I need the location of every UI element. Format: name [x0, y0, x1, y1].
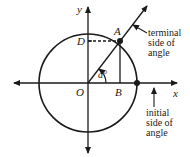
initial-line-3: angle: [146, 128, 173, 138]
terminal-side-ray: [88, 6, 147, 83]
point-D-label: D: [77, 36, 85, 47]
x-axis-label: x: [173, 88, 178, 99]
point-B-label: B: [115, 87, 122, 98]
terminal-line-3: angle: [148, 48, 181, 58]
angle-label: a°: [98, 70, 107, 80]
unit-circle-diagram: y x D A O B a° terminal side of angle in…: [0, 0, 190, 157]
terminal-pointer: [133, 25, 147, 33]
point-O-label: O: [76, 87, 84, 98]
point-A: [117, 38, 123, 44]
point-circle-x-intercept: [134, 80, 140, 86]
point-A-label: A: [114, 26, 121, 37]
terminal-side-annotation: terminal side of angle: [148, 28, 181, 58]
y-axis-label: y: [77, 4, 82, 15]
initial-side-annotation: initial side of angle: [146, 108, 173, 138]
